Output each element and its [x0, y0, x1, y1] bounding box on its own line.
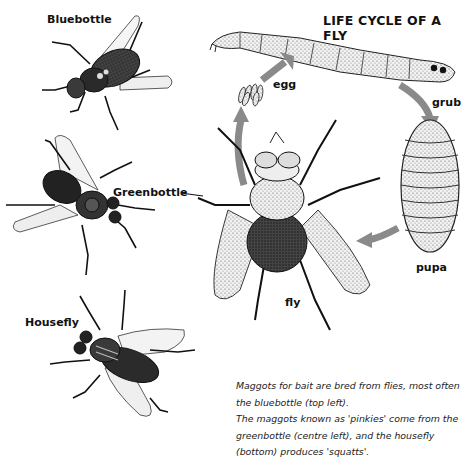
label-fly: fly	[285, 296, 300, 309]
label-egg: egg	[273, 78, 296, 91]
label-housefly: Housefly	[25, 316, 79, 329]
caption-line-3: The maggots known as 'pinkies' come from…	[236, 411, 465, 428]
caption-line-1: Maggots for bait are bred from flies, mo…	[236, 378, 465, 395]
pupa-illustration	[401, 120, 459, 252]
caption: Maggots for bait are bred from flies, mo…	[236, 378, 465, 461]
housefly-illustration	[50, 290, 195, 416]
eggs-illustration	[237, 84, 263, 107]
bluebottle-illustration	[42, 16, 172, 130]
label-grub: grub	[432, 96, 461, 109]
greenbottle-illustration	[6, 135, 155, 275]
caption-line-4: greenbottle (centre left), and the house…	[236, 428, 465, 445]
label-greenbottle: Greenbottle	[113, 186, 187, 199]
label-bluebottle: Bluebottle	[47, 13, 112, 26]
caption-line-5: (bottom) produces 'squatts'.	[236, 444, 465, 461]
diagram-title: LIFE CYCLE OF A FLY	[323, 13, 465, 43]
caption-line-2: the bluebottle (top left).	[236, 395, 465, 412]
label-pupa: pupa	[416, 261, 447, 274]
